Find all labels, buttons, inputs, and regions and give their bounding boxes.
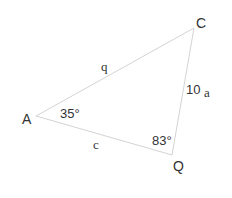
angle-label-a: 35° (60, 106, 80, 121)
vertex-label-q: Q (173, 158, 184, 174)
vertex-label-c: C (196, 15, 206, 31)
angle-label-q: 83° (152, 133, 172, 148)
side-label-q: q (101, 59, 108, 74)
vertex-label-a: A (22, 111, 32, 127)
side-value-a: 10 (186, 82, 200, 97)
triangle-diagram: C A Q q c 10 a 35° 83° (0, 0, 232, 198)
side-label-c: c (93, 137, 99, 152)
side-q (36, 28, 194, 116)
side-label-a: a (204, 85, 210, 100)
